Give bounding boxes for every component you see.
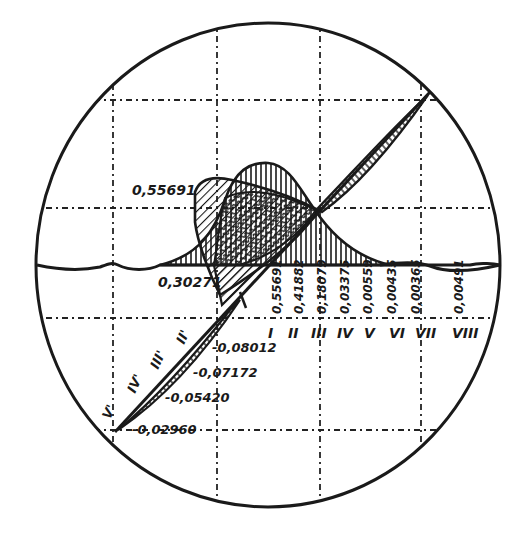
category-numeral: V [364,325,376,341]
category-value: 0,41882 [292,259,306,314]
category-numeral: VII [415,325,436,341]
diagonal-numeral: V' [99,402,119,421]
left-base-value-label: 0,30271 [158,274,222,290]
category-numeral: VI [389,325,405,341]
category-numeral: III [311,325,327,341]
category-value: 0,00365 [409,259,423,314]
category-value: 0,00491 [452,259,466,314]
diagonal-value: -0,07172 [193,365,258,380]
category-numeral: VIII [452,325,478,341]
category-value: 0,55691 [270,259,284,314]
category-numeral: IV [337,325,354,341]
diagonal-value: -0,08012 [212,340,277,355]
diagonal-numeral: IV' [124,372,146,395]
diagonal-numeral: III' [147,348,168,371]
diagonal-value: -0,02960 [132,422,197,437]
peak-value-label: 0,55691 [132,182,196,198]
category-numeral: I [268,325,273,341]
diagonal-numeral: II' [173,328,192,347]
horizontal-category-numerals: I II III IV V VI VII VIII [268,325,478,341]
diagonal-value: -0,05420 [165,390,230,405]
circular-diagram: 0,55691 0,30271 0,55691 0,41882 0,18079 … [0,0,527,542]
category-value: 0,00559 [361,259,375,314]
category-value: 0,00435 [385,259,399,314]
category-value: 0,03375 [338,259,352,314]
category-value: 0,18079 [315,259,329,314]
category-numeral: II [288,325,298,341]
